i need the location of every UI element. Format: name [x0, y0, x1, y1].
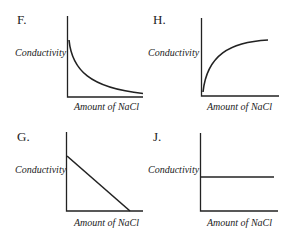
panel-f-graph	[68, 16, 144, 97]
panel-h-curve	[203, 40, 268, 92]
graphs-canvas	[0, 0, 286, 235]
panel-h-graph	[202, 18, 280, 96]
panel-j-axes	[201, 133, 279, 211]
panel-g-axes	[67, 132, 144, 211]
panel-j-graph	[200, 133, 278, 211]
panel-g-line	[67, 156, 130, 211]
panel-g-graph	[67, 132, 144, 211]
panel-f-curve	[69, 40, 143, 94]
panel-h-axes	[202, 18, 280, 96]
